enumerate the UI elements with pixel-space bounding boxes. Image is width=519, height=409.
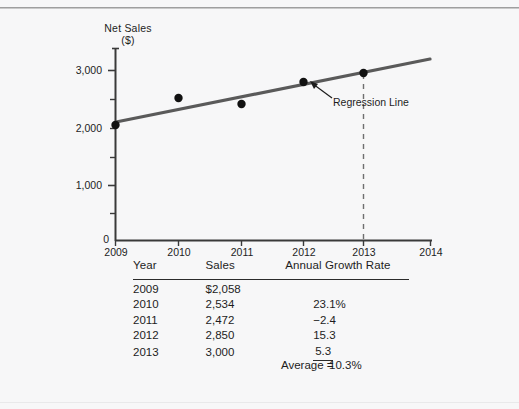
cell-sales: 2,850 (192, 328, 268, 344)
average-label: Average = (281, 359, 334, 371)
data-point-2011 (237, 100, 245, 108)
data-point-2009 (111, 121, 119, 129)
table-row: 2012 2,850 15.3 (133, 328, 409, 344)
cell-year: 2011 (133, 313, 192, 329)
x-tick-label-2014: 2014 (406, 246, 456, 258)
cell-sales: 2,534 (192, 297, 268, 313)
cell-year: 2010 (133, 297, 192, 313)
cell-growth: 15.3 (267, 328, 409, 344)
data-point-2013 (359, 69, 367, 77)
x-tick-label-2012: 2012 (279, 246, 329, 258)
x-tick-label-2009: 2009 (91, 246, 141, 258)
cell-sales: 3,000 (192, 344, 268, 362)
average-value: 10.3% (329, 359, 362, 371)
table-row: 2013 3,000 5.3 (133, 344, 409, 362)
y-axis-title-line2: ($) (88, 34, 168, 46)
cell-year: 2009 (133, 282, 192, 298)
table-row: 2010 2,534 23.1% (133, 297, 409, 313)
cell-year: 2013 (133, 344, 192, 362)
table-header-underline (133, 279, 409, 280)
figure-container: Net Sales ($) (0, 0, 519, 409)
column-header-year: Year (133, 258, 192, 278)
sales-table-area: Year Sales Annual Growth Rate 2009 $2,05… (0, 258, 519, 398)
cell-growth: 23.1% (267, 297, 409, 313)
bottom-divider (0, 402, 519, 403)
cell-year: 2012 (133, 328, 192, 344)
x-tick-label-2013: 2013 (339, 246, 389, 258)
column-header-sales: Sales (192, 258, 268, 278)
sales-table: Year Sales Annual Growth Rate 2009 $2,05… (133, 258, 409, 361)
y-tick-label-2000: 2,000 (56, 122, 102, 134)
y-tick-label-1000: 1,000 (56, 179, 102, 191)
data-point-2012 (299, 78, 307, 86)
column-header-growth: Annual Growth Rate (267, 258, 409, 278)
cell-growth: −2.4 (267, 313, 409, 329)
regression-line (116, 59, 430, 122)
cell-sales: 2,472 (192, 313, 268, 329)
net-sales-chart: Net Sales ($) (0, 0, 519, 260)
data-point-2010 (174, 94, 182, 102)
y-axis-title-line1: Net Sales (88, 22, 168, 34)
cell-growth (267, 282, 409, 298)
cell-sales: $2,058 (192, 282, 268, 298)
y-tick-label-3000: 3,000 (56, 64, 102, 76)
x-tick-label-2010: 2010 (154, 246, 204, 258)
table-row: 2009 $2,058 (133, 282, 409, 298)
table-header-row: Year Sales Annual Growth Rate (133, 258, 409, 278)
y-tick-label-0: 0 (95, 233, 109, 245)
regression-line-annotation: Regression Line (333, 96, 409, 108)
x-tick-label-2011: 2011 (217, 246, 267, 258)
table-row: 2011 2,472 −2.4 (133, 313, 409, 329)
